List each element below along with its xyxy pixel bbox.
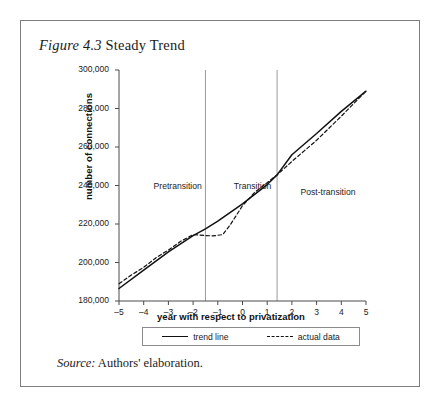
x-tick-label: 3: [307, 307, 327, 317]
y-tick-label: 280,000: [61, 103, 109, 113]
x-tick-label: –5: [109, 307, 129, 317]
legend-label-trend-line: trend line: [193, 332, 228, 342]
x-tick-label: –4: [134, 307, 154, 317]
x-tick-label: 1: [257, 307, 277, 317]
source-text: Authors' elaboration.: [98, 356, 203, 370]
y-tick-label: 200,000: [61, 257, 109, 267]
region-label-post-transition: Post-transition: [301, 187, 356, 197]
y-tick-label: 260,000: [61, 141, 109, 151]
region-label-transition: Transition: [234, 181, 271, 191]
x-tick-label: –3: [158, 307, 178, 317]
legend-swatch-dashed-icon: [267, 336, 293, 337]
legend-entry-actual-data: actual data: [267, 332, 340, 342]
legend-swatch-solid-icon: [162, 336, 188, 337]
figure-frame: Figure 4.3 Steady Trend number of connec…: [20, 20, 420, 387]
x-tick-label: 4: [331, 307, 351, 317]
y-tick-label: 220,000: [61, 218, 109, 228]
region-label-pretransition: Pretransition: [154, 181, 202, 191]
legend-label-actual-data: actual data: [298, 332, 340, 342]
x-tick-label: –1: [208, 307, 228, 317]
y-tick-label: 300,000: [61, 64, 109, 74]
x-tick-label: 2: [282, 307, 302, 317]
source-label: Source:: [57, 356, 95, 370]
legend-entry-trend-line: trend line: [162, 332, 228, 342]
chart-plot-area: number of connections year with respect …: [21, 21, 421, 388]
x-tick-label: 5: [356, 307, 376, 317]
y-tick-label: 240,000: [61, 180, 109, 190]
x-tick-label: –2: [183, 307, 203, 317]
y-tick-label: 180,000: [61, 295, 109, 305]
x-tick-label: 0: [233, 307, 253, 317]
figure-source-note: Source: Authors' elaboration.: [57, 356, 203, 371]
chart-legend: trend line actual data: [142, 327, 360, 346]
